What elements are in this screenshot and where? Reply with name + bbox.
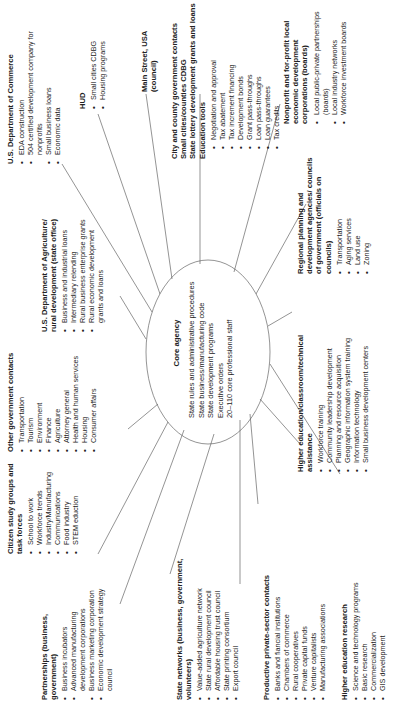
core-line: 20–110 core professional staff [225,268,234,418]
node-private-sector: Productive private-sector contacts Banks… [262,550,327,700]
list-item: Grant pass-throughs [245,1,254,149]
node-usda: U.S. Department of Agriculture/ rural de… [40,217,105,332]
list-item: Value-added agriculture network [195,540,204,700]
list-item: Basic research [360,550,369,700]
list-item: Workforce training [316,297,325,472]
list-item: EDA construction [17,24,26,164]
list-item: Workforce investment boards [339,2,348,124]
list-item: State rural development council [204,540,213,700]
node-state-networks: State networks (business, government, vo… [175,540,240,700]
node-nonprofit-ldc: Nonprofit and for-profit local economic … [282,2,348,124]
node-higher-ed-classroom: Higher education/classroom/technical ass… [296,297,370,472]
node-city-county: City and county government contacts Smal… [170,1,281,159]
list-item: Tourism [26,342,35,452]
list-item: Local industry networks [330,2,339,124]
node-title: Regional planning and development agenci… [296,154,333,274]
list-item: Manufacturing associations [318,550,327,700]
list-item: 504 certified development company for no… [26,24,44,164]
node-title: U.S. Department of Agriculture/ rural de… [40,217,58,332]
list-item: Finance [44,342,53,452]
node-title: Citizen study groups and task forces [6,454,24,554]
list-item: Commercialization [369,550,378,700]
list-item: Rural cooperatives [291,550,300,700]
list-item: Loan pass-throughs [254,1,263,149]
core-agency-title: Core agency [172,268,181,418]
node-title: Main Street, USA (council) [140,0,158,92]
core-line: Executive orders [216,268,225,418]
list-item: Affordable housing trust council [213,540,222,700]
list-item: Rural business enterprise grants [78,217,87,332]
list-item: Zoning [362,154,371,274]
list-item: GIS development [378,550,387,700]
list-item: Housing [80,342,89,452]
node-title: Other government contacts [6,342,15,452]
core-line: State development programs [206,268,215,418]
node-title: Nonprofit and for-profit local economic … [282,2,310,124]
list-item: Consumer affairs [89,342,98,452]
list-item: Chambers of commerce [282,550,291,700]
list-item: Export council [231,540,240,700]
list-item: Environment [35,342,44,452]
list-item: STEM eduction [71,454,80,554]
list-item: Business incubators [60,582,69,700]
list-item: Geographic information system training [343,297,352,472]
list-item: School to work [26,454,35,554]
list-item: Small business development centers [361,297,370,472]
list-item: Community leadership development [325,297,334,472]
list-item: Aging services [344,154,353,274]
node-title: U.S. Department of Commerce [6,24,15,164]
list-item: Small cities CDBG [89,9,98,109]
list-item: Agriculture [53,342,62,452]
list-item: Economic data [53,24,62,164]
node-hud: HUD Small cities CDBG Housing programs [78,9,107,109]
list-item: Workforce trends [35,454,44,554]
list-item: Business marketing corporation [87,582,96,700]
node-partnerships: Partnerships (business, government) Busi… [40,582,114,700]
node-title: Partnerships (business, government) [40,582,58,700]
list-item: Economic development strategy council [96,582,114,700]
list-item: Communications [53,454,62,554]
list-item: Small business loans [44,24,53,164]
node-title-group: City and county government contacts Smal… [170,1,207,159]
list-item: Information technology [352,297,361,472]
diagram-canvas: Core agency State rules and administrati… [0,0,403,704]
node-title: City and county government contacts [170,1,179,159]
core-line: State business/manufacturing code [197,268,206,418]
list-item: Tax credits [272,1,281,149]
node-higher-ed-research: Higher education research Science and te… [340,550,387,700]
list-item: Transportation [335,154,344,274]
node-citizen-study-groups: Citizen study groups and task forces Sch… [6,454,80,554]
list-item: Rural economic development grants and lo… [87,217,105,332]
list-item: Loan guarantees [263,1,272,149]
list-item: Development bonds [236,1,245,149]
list-item: Housing programs [98,9,107,109]
list-item: Science and technology programs [351,550,360,700]
list-item: Private capital funds [300,550,309,700]
node-main-street: Main Street, USA (council) [140,0,160,92]
list-item: Health and human services [71,342,80,452]
node-title: Productive private-sector contacts [262,550,271,700]
node-title: Higher education/classroom/technical ass… [296,297,314,472]
list-item: Venture capitalists [309,550,318,700]
node-regional-planning: Regional planning and development agenci… [296,154,371,274]
node-title: State lottery development grants and loa… [188,1,197,159]
list-item: Tax increment financing [227,1,236,149]
list-item: Tax abatement [218,1,227,149]
node-title: State networks (business, government, vo… [175,540,193,700]
list-item: Negotiation and approval [209,1,218,149]
list-item: Planning and resource acquisition [334,297,343,472]
list-item: Banks and fiancial institutions [273,550,282,700]
list-item: Food industry [62,454,71,554]
node-title: Small cities/counties CDBG [179,1,188,159]
list-item: Industry/Manufacturing [44,454,53,554]
list-item: Land use [353,154,362,274]
list-item: Advanced manufacturing development corpo… [69,582,87,700]
list-item: State printing consortium [222,540,231,700]
node-other-government-contacts: Other government contacts Transportation… [6,342,98,452]
node-title: Education tools [198,1,207,159]
core-agency: Core agency State rules and administrati… [172,268,234,418]
node-us-commerce: U.S. Department of Commerce EDA construc… [6,24,62,164]
node-title: HUD [78,9,87,109]
core-line: State rules and administrative procedure… [187,268,196,418]
list-item: Intermediary relending [69,217,78,332]
